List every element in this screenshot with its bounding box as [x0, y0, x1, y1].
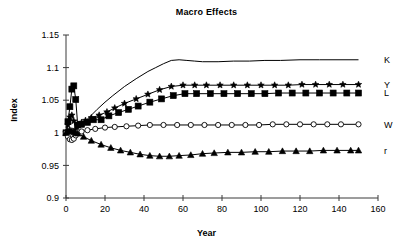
marker-circle-open	[85, 128, 90, 133]
marker-star	[299, 81, 305, 87]
marker-circle-open	[256, 122, 261, 127]
marker-square	[67, 104, 73, 110]
marker-square	[84, 119, 90, 125]
x-tick-label: 40	[139, 204, 149, 214]
marker-star	[244, 82, 250, 88]
marker-star	[285, 82, 291, 88]
y-tick-label: 0.9	[46, 193, 59, 203]
marker-star	[326, 81, 332, 87]
y-axis: 0.90.9511.051.11.15	[41, 30, 69, 203]
marker-star	[230, 82, 236, 88]
y-tick-label: 0.95	[41, 161, 59, 171]
marker-circle-open	[202, 122, 207, 127]
marker-circle-open	[297, 122, 302, 127]
marker-circle-open	[124, 124, 129, 129]
marker-square	[317, 90, 323, 96]
marker-square	[106, 113, 112, 119]
marker-square	[194, 91, 200, 97]
marker-circle-open	[147, 122, 152, 127]
x-tick-label: 0	[63, 204, 68, 214]
marker-circle-open	[112, 124, 117, 129]
marker-square	[182, 91, 188, 97]
marker-triangle	[88, 137, 94, 143]
marker-square	[116, 110, 122, 116]
series-end-label-r: r	[384, 146, 387, 156]
macro-effects-chart: Macro Effects Index Year 0.90.9511.051.1…	[0, 0, 413, 248]
x-tick-label: 140	[331, 204, 346, 214]
marker-star	[180, 82, 186, 88]
x-tick-label: 80	[217, 204, 227, 214]
marker-square	[73, 97, 79, 103]
marker-star	[168, 83, 174, 89]
x-tick-label: 20	[100, 204, 110, 214]
marker-square	[303, 90, 309, 96]
marker-circle-open	[216, 122, 221, 127]
marker-star	[271, 82, 277, 88]
marker-star	[145, 91, 151, 97]
y-tick-label: 1.1	[46, 63, 59, 73]
marker-star	[191, 82, 197, 88]
marker-circle-open	[136, 123, 141, 128]
marker-circle-open	[161, 122, 166, 127]
marker-triangle	[98, 141, 104, 147]
marker-star	[312, 81, 318, 87]
marker-square	[90, 117, 96, 123]
x-tick-label: 120	[292, 204, 307, 214]
marker-square	[221, 91, 227, 97]
marker-circle-open	[270, 122, 275, 127]
marker-square	[276, 90, 282, 96]
marker-square	[135, 103, 141, 109]
y-tick-label: 1.15	[41, 30, 59, 40]
x-axis: 020406080100120140160	[63, 195, 385, 214]
marker-star	[217, 82, 223, 88]
series-r	[63, 127, 362, 159]
marker-star	[258, 82, 264, 88]
plot-area: 0.90.9511.051.11.15 02040608010012014016…	[0, 0, 413, 248]
marker-circle-open	[102, 125, 107, 130]
series-layer	[63, 60, 362, 159]
marker-square	[207, 91, 213, 97]
marker-square	[248, 91, 254, 97]
marker-square	[147, 99, 153, 105]
marker-star	[355, 81, 361, 87]
y-tick-label: 1	[54, 128, 59, 138]
series-line-r	[66, 130, 359, 156]
series-end-label-K: K	[384, 55, 390, 65]
marker-square	[289, 90, 295, 96]
marker-circle-open	[188, 122, 193, 127]
x-tick-label: 60	[178, 204, 188, 214]
marker-square	[65, 119, 71, 125]
marker-square	[125, 106, 131, 112]
marker-circle-open	[93, 126, 98, 131]
marker-circle-open	[325, 122, 330, 127]
marker-star	[156, 86, 162, 92]
marker-star	[340, 81, 346, 87]
series-end-labels: KYLWr	[384, 55, 393, 156]
series-end-label-L: L	[384, 88, 389, 98]
marker-star	[203, 82, 209, 88]
marker-square	[79, 121, 85, 127]
marker-circle-open	[229, 122, 234, 127]
marker-star	[121, 100, 127, 106]
series-W	[63, 122, 361, 143]
x-tick-label: 160	[370, 204, 385, 214]
marker-star	[133, 96, 139, 102]
marker-circle-open	[284, 122, 289, 127]
marker-square	[98, 117, 104, 123]
marker-circle-open	[311, 122, 316, 127]
marker-circle-open	[243, 122, 248, 127]
series-end-label-W: W	[384, 120, 393, 130]
marker-square	[170, 93, 176, 99]
marker-square	[356, 90, 362, 96]
marker-circle-open	[338, 122, 343, 127]
marker-square	[330, 90, 336, 96]
y-tick-label: 1.05	[41, 95, 59, 105]
marker-circle-open	[175, 122, 180, 127]
marker-square	[235, 91, 241, 97]
marker-circle-open	[356, 122, 361, 127]
marker-square	[344, 90, 350, 96]
marker-square	[71, 83, 77, 89]
marker-square	[262, 91, 268, 97]
x-tick-label: 100	[253, 204, 268, 214]
marker-square	[159, 96, 165, 102]
